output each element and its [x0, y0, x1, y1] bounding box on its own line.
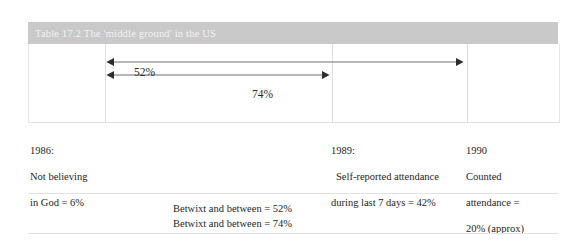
note-1986-line2: in God = 6%	[30, 196, 87, 209]
column-note-1990: 1990 Counted attendance = 20% (approx)	[466, 131, 524, 248]
note-1989-year: 1989:	[331, 144, 439, 157]
note-1986-line1: Not believing	[30, 170, 87, 183]
column-divider-2	[332, 44, 333, 122]
column-note-1989: 1989: Self-reported attendance during la…	[331, 131, 439, 222]
note-1990-year: 1990	[466, 144, 524, 157]
column-divider-1	[105, 44, 106, 122]
arrow-label-74: 74%	[252, 88, 273, 100]
column-divider-3	[467, 44, 468, 122]
footer-line-1: Betwixt and between = 52%	[173, 201, 292, 216]
note-1989-line1: Self-reported attendance	[331, 170, 439, 183]
footer-line-2: Betwixt and between = 74%	[173, 216, 292, 231]
footer-bottom-rule	[28, 233, 558, 234]
table-caption-text: Table 17.2 The 'middle ground' in the US	[28, 28, 216, 39]
table-body	[28, 44, 560, 123]
note-1990-line2: attendance =	[466, 196, 524, 209]
column-note-1986: 1986: Not believing in God = 6%	[30, 131, 87, 222]
footer-notes: Betwixt and between = 52% Betwixt and be…	[173, 201, 292, 231]
footer-top-rule	[28, 193, 558, 194]
table-caption-bar: Table 17.2 The 'middle ground' in the US	[28, 22, 558, 44]
table-figure: Table 17.2 The 'middle ground' in the US…	[0, 0, 569, 249]
note-1989-line2: during last 7 days = 42%	[331, 196, 439, 209]
arrow-label-52: 52%	[134, 66, 155, 78]
note-1990-line1: Counted	[466, 170, 524, 183]
note-1986-year: 1986:	[30, 144, 87, 157]
